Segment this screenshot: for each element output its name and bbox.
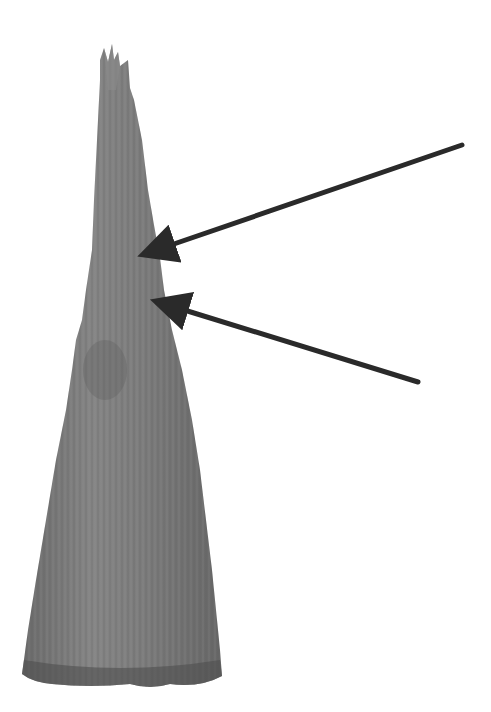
figure-canvas: [0, 0, 491, 712]
annotation-arrows: [168, 145, 462, 382]
lower-arrow-icon: [181, 309, 418, 382]
specimen-bulge-shade: [83, 340, 127, 400]
upper-arrow-icon: [168, 145, 462, 246]
specimen-figure: [0, 0, 491, 712]
specimen: [22, 44, 222, 687]
